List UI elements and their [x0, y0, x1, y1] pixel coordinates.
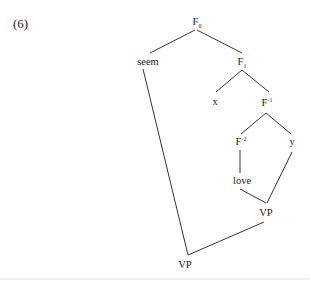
node-love: love: [233, 176, 251, 187]
node-F1: F1: [238, 57, 247, 68]
node-F-minus-2: F-2: [236, 137, 247, 148]
node-F1-subscript: 1: [243, 63, 246, 69]
node-F-minus-1-superscript: -1: [267, 97, 272, 103]
edge-Fminus1-y: [266, 113, 291, 134]
edge-VP-upper-VP-lower: [188, 222, 264, 255]
node-VP-lower: VP: [178, 260, 191, 271]
tree-edges: [0, 0, 310, 281]
node-y: y: [289, 137, 294, 148]
edge-love-VP-upper: [240, 189, 266, 203]
edge-F1-x: [216, 70, 242, 92]
node-F-minus-1: F-1: [262, 98, 273, 109]
node-F0-subscript: 0: [198, 23, 201, 29]
bottom-divider: [0, 278, 310, 280]
node-seem: seem: [137, 57, 159, 68]
edge-y-VP-upper: [267, 152, 292, 203]
edge-seem-VP-lower: [143, 69, 188, 255]
edge-F1-Fminus1: [242, 70, 269, 92]
edge-F0-seem: [150, 30, 195, 53]
edge-Fminus1-Fminus2: [241, 113, 266, 134]
node-x: x: [212, 97, 217, 108]
node-F-minus-2-superscript: -2: [241, 136, 246, 142]
edge-F0-F1: [197, 30, 242, 53]
node-VP-upper: VP: [259, 208, 272, 219]
node-F0: F0: [193, 17, 202, 28]
